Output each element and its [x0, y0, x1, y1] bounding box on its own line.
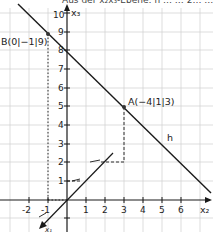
- x2-tick-6: 6: [178, 205, 184, 215]
- x1-axis: x₁: [39, 153, 113, 232]
- x2-axis: -2 -1 1 2 3 4 5 6 x₂: [0, 197, 212, 215]
- x2-tick-4: 4: [140, 205, 146, 215]
- x3-tick-9: 9: [58, 27, 64, 37]
- x3-tick-3: 3: [58, 139, 64, 149]
- line-h-label: h: [167, 132, 173, 143]
- x2-tick-5: 5: [159, 205, 165, 215]
- point-a-label: A(−4|1|3): [128, 96, 174, 107]
- x2-tick-minus2: -2: [22, 205, 31, 215]
- x2-axis-label: x₂: [200, 204, 210, 215]
- x2-tick-2: 2: [102, 205, 108, 215]
- x3-axis-label: x₃: [71, 7, 81, 18]
- coordinate-diagram: Aus der x₂x₃-Ebene: h … … 2… …: [0, 0, 213, 232]
- x3-tick-1: 1: [58, 176, 64, 186]
- x3-tick-7: 7: [58, 64, 64, 74]
- x3-tick-2: 2: [58, 157, 64, 167]
- point-a: [122, 105, 126, 109]
- x3-tick-10: 10: [53, 10, 65, 20]
- x2-tick-3: 3: [121, 205, 127, 215]
- x3-axis: 1 2 3 4 5 6 7 8 9 10 x₃: [53, 4, 81, 232]
- x1-axis-label: x₁: [44, 226, 52, 232]
- point-b-label: B(0|−1|9): [1, 36, 47, 47]
- x3-tick-4: 4: [58, 120, 64, 130]
- x3-tick-6: 6: [58, 83, 64, 93]
- x2-tick-1: 1: [83, 205, 89, 215]
- x3-tick-5: 5: [58, 101, 64, 111]
- clipped-header-text: Aus der x₂x₃-Ebene: h … … 2… …: [62, 0, 213, 5]
